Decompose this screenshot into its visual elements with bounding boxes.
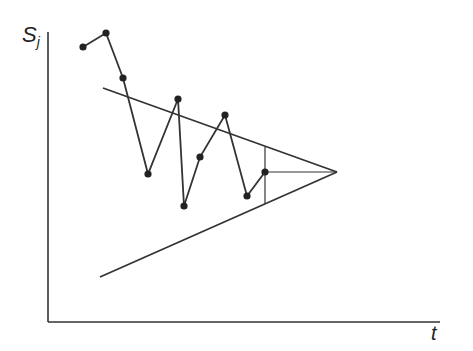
data-point — [180, 202, 187, 209]
data-point — [243, 192, 250, 199]
data-point — [102, 29, 109, 36]
data-point — [174, 95, 181, 102]
triangle-pattern-diagram: Sj t — [0, 0, 473, 351]
y-axis-label: Sj — [22, 22, 40, 50]
lower-trend-line — [100, 172, 337, 277]
data-point — [119, 74, 126, 81]
diagram-canvas — [0, 0, 473, 351]
data-point — [79, 43, 86, 50]
data-point — [221, 111, 228, 118]
upper-trend-line — [103, 88, 337, 172]
data-point — [261, 168, 268, 175]
data-point — [196, 153, 203, 160]
data-point — [144, 170, 151, 177]
data-series-line — [83, 33, 265, 206]
x-axis-label: t — [431, 322, 437, 345]
